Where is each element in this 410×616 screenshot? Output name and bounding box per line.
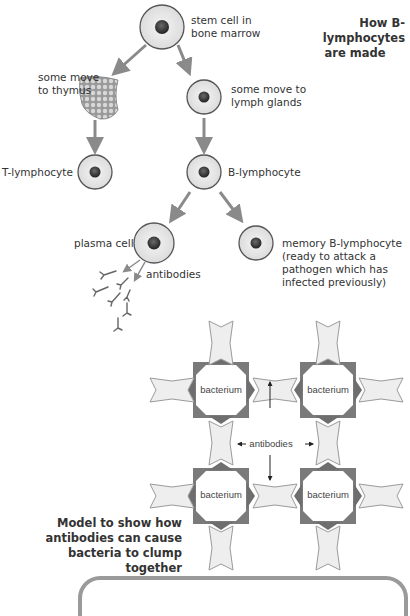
lymph-glands-label: some move to lymph glands [231,83,306,109]
antibody-shape [253,378,297,402]
antibody-shape [209,421,233,465]
plasma-cell [134,223,174,263]
label-line: stem cell in [191,14,260,27]
antibody-shape [359,484,403,508]
t-lymphocyte-label: T-lymphocyte [2,166,73,179]
thymus-label: some move to thymus [38,71,99,97]
stem-cell [140,5,184,49]
memory-b-lymphocyte-cell [239,226,273,260]
diagram-title: How B-lymphocytes are made [295,16,405,61]
model-caption: Model to show how antibodies can cause b… [40,516,182,576]
bottom-panel-frame [78,576,408,616]
antibody-shape [316,321,340,365]
label-line: pathogen which has [282,263,402,276]
antibody-shape [316,421,340,465]
label-line: some move [38,71,99,84]
antibody-shape [253,484,297,508]
label-line: lymph glands [231,96,306,109]
bacterium-label: bacterium [199,384,243,395]
bacterium-label: bacterium [199,489,243,500]
caption-line: Model to show how [40,516,182,531]
antibody-shape [359,378,403,402]
antibody-release-arrows [126,260,145,278]
plasma-cell-label: plasma cell [74,237,134,250]
label-line: infected previously) [282,276,402,289]
bacterium-label: bacterium [306,489,350,500]
bacterium-label: bacterium [306,384,350,395]
t-lymphocyte-cell [78,155,112,189]
caption-line: antibodies can cause [40,531,182,546]
antibody-shape [209,321,233,365]
memory-b-lymphocyte-label: memory B-lymphocyte (ready to attack a p… [282,237,402,289]
lymph-gland-cell [187,80,221,114]
title-line: are made [295,46,405,61]
antibody-shape [316,526,340,570]
stem-cell-label: stem cell in bone marrow [191,14,260,40]
label-line: some move to [231,83,306,96]
antibodies-model-label: antibodies [248,438,294,449]
antibody-icons [93,271,131,331]
label-line: bone marrow [191,27,260,40]
antibody-shape [209,526,233,570]
label-line: to thymus [38,84,99,97]
title-line: How B-lymphocytes [295,16,405,46]
antibodies-label: antibodies [146,268,201,281]
flow-arrows [95,44,238,216]
antibody-shape [150,484,194,508]
label-line: (ready to attack a [282,250,402,263]
label-line: memory B-lymphocyte [282,237,402,250]
b-lymphocyte-cell [187,155,221,189]
b-lymphocyte-label: B-lymphocyte [228,166,301,179]
antibody-shape [150,378,194,402]
caption-line: bacteria to clump together [40,546,182,576]
